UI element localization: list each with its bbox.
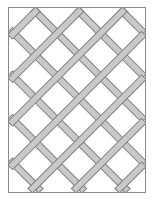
lattice-diagram bbox=[0, 0, 154, 203]
